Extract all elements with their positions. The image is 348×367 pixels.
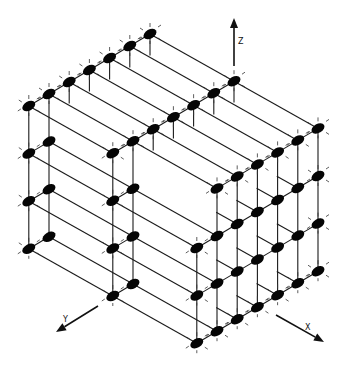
node-tick (39, 88, 42, 90)
node-tick (102, 251, 105, 253)
x-axis-label: X (305, 323, 311, 332)
node-tick (121, 287, 124, 289)
node-tick (37, 240, 40, 242)
node-tick (286, 156, 289, 158)
node-tick (265, 168, 268, 170)
node-tick (158, 25, 161, 27)
node-tick (245, 180, 248, 182)
node-tick (326, 228, 329, 230)
node-tick (205, 287, 208, 289)
node-tick (308, 265, 311, 267)
node-tick (306, 287, 309, 289)
node-tick (326, 180, 329, 182)
z-axis-label: Z (238, 37, 244, 46)
node-tick (18, 204, 21, 206)
node-tick (326, 275, 329, 277)
node-tick (121, 157, 124, 159)
node-tick (308, 170, 311, 172)
lattice-nodes (20, 27, 326, 351)
node-tick (326, 262, 329, 264)
node-tick (19, 148, 22, 150)
node-tick (326, 167, 329, 169)
node-tick (100, 52, 103, 54)
node-tick (37, 192, 40, 194)
node-tick (37, 145, 40, 147)
y-axis-arrow-icon: Y (56, 306, 98, 332)
node-tick (19, 243, 22, 245)
node-tick (120, 40, 123, 42)
node-tick (242, 72, 245, 74)
node-tick (18, 109, 21, 111)
node-tick (18, 252, 21, 254)
lattice-diagram: Z Y X (0, 0, 348, 367)
node-tick (102, 156, 105, 158)
x-axis-arrow-icon: X (276, 315, 324, 342)
node-tick (206, 191, 209, 193)
node-tick (59, 76, 62, 78)
node-tick (308, 218, 311, 220)
node-tick (79, 64, 82, 66)
node-tick (121, 192, 124, 194)
node-tick (286, 299, 289, 301)
node-tick (326, 119, 329, 121)
node-tick (19, 195, 22, 197)
node-tick (186, 299, 189, 301)
node-tick (102, 204, 105, 206)
node-tick (205, 347, 208, 349)
node-tick (186, 251, 189, 253)
node-tick (205, 239, 208, 241)
node-tick (18, 157, 21, 159)
node-tick (19, 100, 22, 102)
node-tick (326, 132, 329, 134)
node-tick (225, 192, 228, 194)
node-tick (245, 323, 248, 325)
lattice-rod (133, 189, 217, 236)
node-tick (205, 252, 208, 254)
node-tick (186, 346, 189, 348)
node-tick (121, 239, 124, 241)
node-tick (102, 299, 105, 301)
node-tick (205, 300, 208, 302)
node-tick (140, 28, 143, 30)
y-axis-label: Y (62, 315, 68, 324)
node-tick (326, 215, 329, 217)
node-tick-marks (18, 23, 329, 353)
node-tick (265, 311, 268, 313)
z-axis-arrow-icon: Z (230, 18, 244, 66)
node-tick (306, 144, 309, 146)
node-tick (225, 335, 228, 337)
